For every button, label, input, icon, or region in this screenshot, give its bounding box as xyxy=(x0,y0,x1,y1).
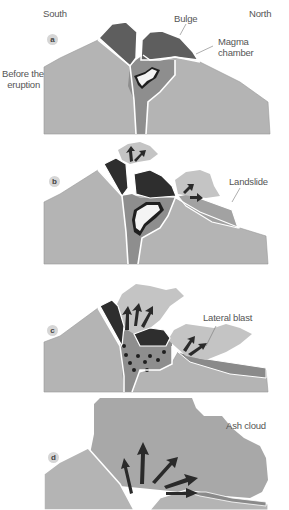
panel-c-illustration xyxy=(0,266,289,394)
bulge-label: Bulge xyxy=(174,13,197,24)
landslide-label: Landslide xyxy=(229,176,268,187)
magma-chamber-line2: chamber xyxy=(218,47,254,58)
magma-chamber-label: Magma chamber xyxy=(218,36,254,58)
panel-d-illustration xyxy=(0,394,289,510)
before-eruption-label: Before the eruption xyxy=(2,68,40,90)
before-eruption-line2: eruption xyxy=(2,79,40,90)
panel-b-marker: b xyxy=(49,176,60,187)
before-eruption-line1: Before the xyxy=(2,68,40,79)
ash-cloud-label: Ash cloud xyxy=(226,420,266,431)
panel-a-marker: a xyxy=(47,34,58,45)
panel-b-illustration xyxy=(0,136,289,266)
panel-c-marker: c xyxy=(47,325,58,336)
magma-chamber-line1: Magma xyxy=(218,36,254,47)
panel-d-marker: d xyxy=(48,452,59,463)
lateral-blast-label: Lateral blast xyxy=(203,312,252,323)
